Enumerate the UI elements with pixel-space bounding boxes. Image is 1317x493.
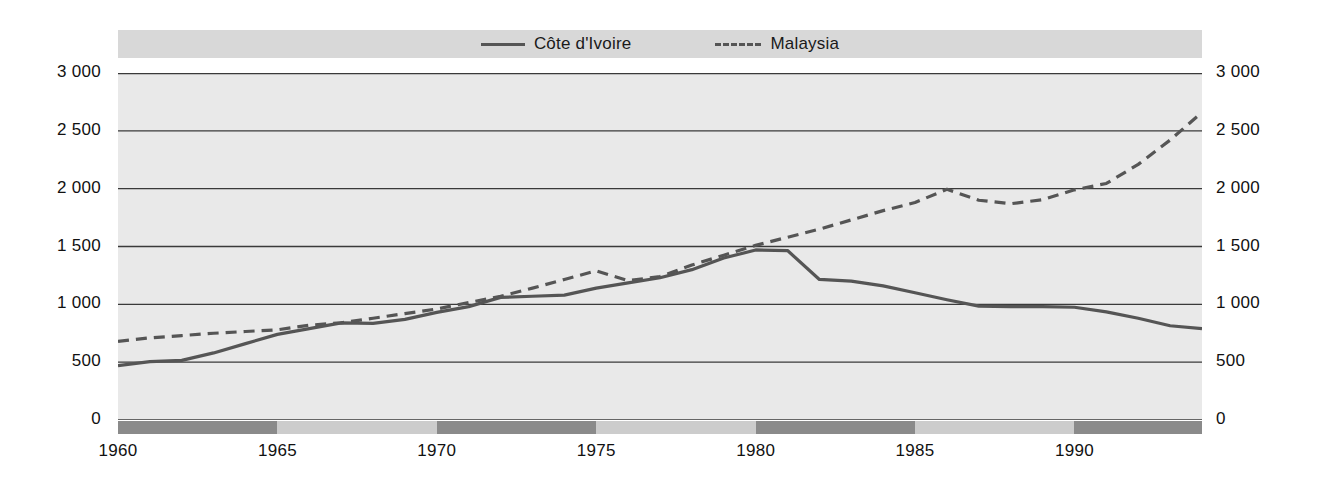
y-axis-tick-label: 3 000 [57, 62, 101, 82]
x-axis-band [756, 421, 915, 434]
x-axis-tick-label: 1985 [896, 441, 935, 461]
gridlines [118, 73, 1202, 420]
y-axis-tick-label: 1 000 [1216, 293, 1260, 313]
y-axis-tick-label: 2 500 [1216, 120, 1260, 140]
plot-svg [118, 73, 1202, 420]
y-axis-tick-label: 0 [1216, 409, 1226, 429]
x-axis-band [915, 421, 1074, 434]
legend-entry-cote-divoire: Côte d'Ivoire [481, 34, 632, 54]
x-axis-band [277, 421, 436, 434]
x-axis-tick-label: 1965 [258, 441, 297, 461]
y-axis-tick-label: 2 000 [1216, 178, 1260, 198]
x-axis-tick-label: 1990 [1055, 441, 1094, 461]
legend-label-cote-divoire: Côte d'Ivoire [534, 34, 632, 54]
y-axis-tick-label: 1 500 [1216, 236, 1260, 256]
x-axis-band [437, 421, 596, 434]
data-series-layer [118, 112, 1202, 365]
x-axis-band [118, 421, 277, 434]
x-axis-band [1074, 421, 1202, 434]
chart-figure: Côte d'Ivoire Malaysia 05001 0001 5002 0… [0, 0, 1317, 493]
x-axis-tick-label: 1975 [577, 441, 616, 461]
y-axis-tick-label: 3 000 [1216, 62, 1260, 82]
y-axis-tick-label: 0 [91, 409, 101, 429]
legend-label-malaysia: Malaysia [770, 34, 839, 54]
y-axis-tick-label: 500 [72, 351, 101, 371]
legend-line-swatch-dashed-icon [715, 43, 761, 46]
y-axis-tick-label: 500 [1216, 351, 1245, 371]
series-line-c-te-d-ivoire [118, 250, 1202, 366]
x-axis-tick-label: 1970 [417, 441, 456, 461]
y-axis-tick-label: 2 500 [57, 120, 101, 140]
y-axis-tick-label: 1 000 [57, 293, 101, 313]
x-axis-tick-label: 1960 [98, 441, 137, 461]
plot-area [118, 73, 1202, 420]
x-axis-tick-label: 1980 [736, 441, 775, 461]
y-axis-tick-label: 1 500 [57, 236, 101, 256]
x-axis-band [596, 421, 755, 434]
y-axis-tick-label: 2 000 [57, 178, 101, 198]
chart-legend: Côte d'Ivoire Malaysia [118, 30, 1202, 58]
legend-entry-malaysia: Malaysia [715, 34, 839, 54]
legend-line-swatch-solid-icon [481, 43, 525, 46]
